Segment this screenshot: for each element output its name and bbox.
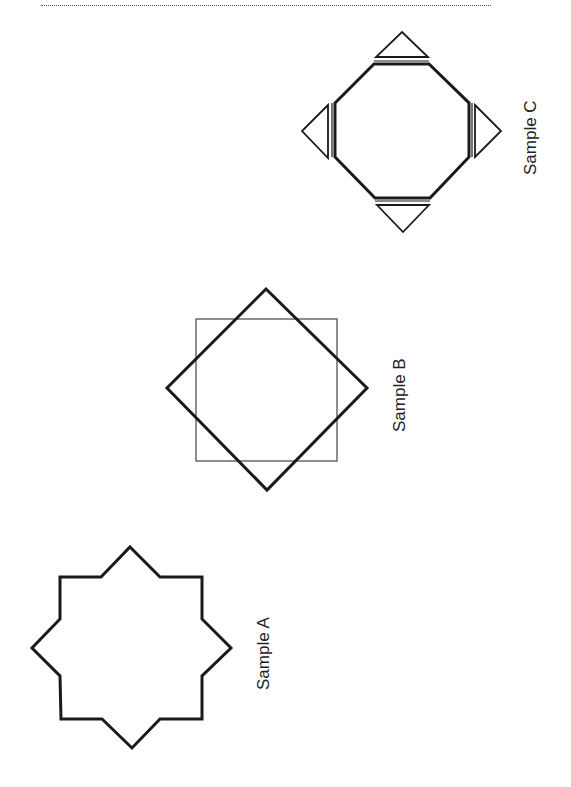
sample-c-top-triangle bbox=[376, 32, 428, 57]
sample-c-bottom-triangle bbox=[377, 205, 429, 232]
sample-c-left-triangle bbox=[302, 105, 328, 158]
sample-c-label: Sample C bbox=[521, 100, 541, 175]
sample-c-right-triangle bbox=[475, 105, 501, 157]
figure-canvas bbox=[0, 0, 571, 787]
sample-a-star bbox=[32, 547, 231, 748]
sample-b-label: Sample B bbox=[390, 358, 410, 432]
sample-a-label: Sample A bbox=[254, 617, 274, 690]
sample-c-octagon bbox=[335, 64, 469, 198]
